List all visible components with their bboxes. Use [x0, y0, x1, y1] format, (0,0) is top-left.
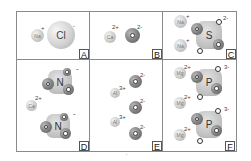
o-atom — [215, 108, 221, 114]
cl-charge: - — [73, 23, 75, 29]
o-charge: 2- — [140, 98, 145, 104]
mg-charge: 2+ — [184, 64, 191, 70]
o-atom — [191, 71, 203, 83]
ca-ion: Ca — [26, 100, 37, 111]
o-atom — [60, 113, 68, 121]
panel-label-a: A — [79, 49, 89, 59]
ca-charge: 2+ — [35, 95, 42, 101]
phosphate-charge: 3- — [224, 64, 229, 70]
nitrate-charge: - — [73, 110, 76, 118]
o-atom — [215, 66, 221, 72]
o-charge: 2- — [140, 72, 145, 78]
panel-label-c: C — [226, 49, 236, 59]
mg-charge: 2+ — [184, 126, 191, 132]
panel-c: Na + Na + S 2- C — [162, 11, 237, 60]
panel-label-e: E — [152, 141, 162, 151]
o-atom — [213, 39, 224, 50]
panel-label-b: B — [152, 49, 162, 59]
o-atom — [216, 19, 222, 25]
nitrate-charge: - — [76, 65, 79, 73]
o-atom — [197, 94, 203, 100]
o-charge: 2- — [140, 124, 145, 130]
o-atom — [211, 125, 222, 136]
o-ion — [125, 28, 140, 43]
o-atom — [42, 78, 54, 90]
ca-charge: 2+ — [112, 24, 119, 30]
panel-b: Ca 2+ 2- B — [89, 11, 163, 60]
o-atom — [40, 121, 52, 133]
o-atom — [63, 84, 74, 95]
panel-f: Mg 2+ Mg 2+ Mg 2+ P 3- P 3- F — [162, 59, 237, 152]
o-atom — [60, 128, 71, 139]
o-atom — [211, 83, 222, 94]
na-charge: + — [186, 13, 190, 19]
o-atom — [63, 68, 71, 76]
o-atom — [191, 113, 203, 125]
na-charge: + — [41, 25, 45, 31]
cl-ion: Cl — [47, 21, 75, 49]
al-charge: 3+ — [119, 114, 126, 120]
o-atom — [197, 138, 203, 144]
ca-ion: Ca — [104, 31, 116, 43]
panel-e: Al 3+ Al 3+ 2- 2- 2- E — [89, 59, 163, 152]
phosphate-charge: 3- — [224, 106, 229, 112]
panel-label-d: D — [79, 141, 89, 151]
panel-label-f: F — [225, 141, 235, 151]
sulfate-charge: 2- — [223, 15, 228, 21]
o-atom — [197, 48, 203, 54]
o-charge: 2- — [137, 24, 142, 30]
panel-d: Ca 2+ N - N - D — [16, 59, 90, 152]
al-charge: 3+ — [119, 85, 126, 91]
na-charge: + — [186, 37, 190, 43]
footer-mark: ' — [126, 153, 127, 159]
mg-charge: 2+ — [184, 94, 191, 100]
panel-a: Na + Cl - A — [16, 11, 90, 60]
o-atom — [191, 23, 203, 35]
